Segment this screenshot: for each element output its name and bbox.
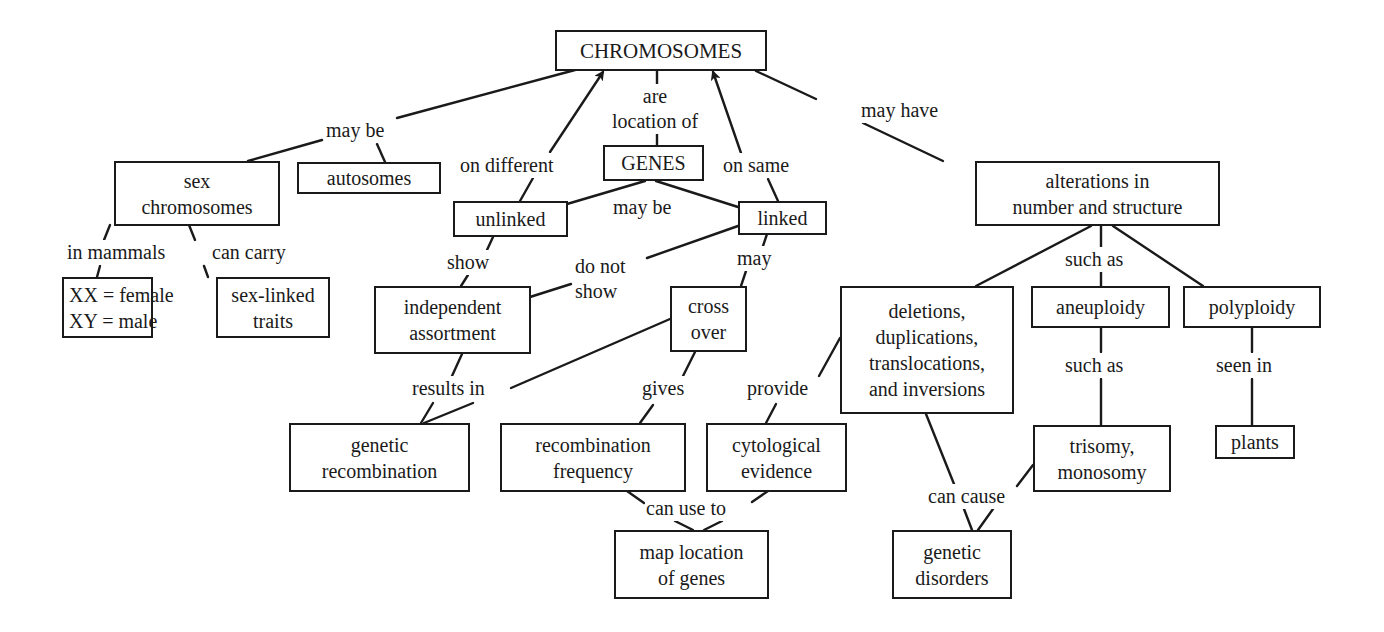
edge-line: [520, 178, 533, 201]
link-label-on-same: on same: [722, 153, 790, 178]
edge-line: [768, 179, 778, 201]
edge-line: [461, 275, 468, 286]
node-map-location-of-genes: map location of genes: [614, 530, 769, 599]
node-text: disorders: [915, 565, 988, 591]
link-label-can-cause: can cause: [927, 484, 1006, 509]
label-text: seen in: [1216, 353, 1272, 378]
node-text: independent: [404, 294, 502, 320]
edge-line: [704, 521, 722, 530]
node-text: traits: [253, 308, 293, 334]
edge-line: [640, 405, 653, 423]
link-label-show: show: [446, 250, 490, 275]
edge-line: [104, 225, 110, 240]
label-text: can cause: [928, 484, 1005, 509]
edge-line: [683, 352, 695, 376]
edge-line: [766, 404, 776, 423]
label-text: may be: [326, 118, 384, 143]
edge-line: [763, 234, 767, 246]
node-xx-xy: XX = female XY = male: [62, 277, 153, 338]
node-chromosomes: CHROMOSOMES: [555, 30, 767, 71]
edge-line: [926, 414, 954, 484]
edge-line: [452, 354, 462, 376]
node-text: translocations,: [869, 350, 985, 376]
label-text: show: [447, 250, 489, 275]
label-text: can use to: [646, 496, 726, 521]
edge-line: [627, 491, 644, 503]
node-text: polyploidy: [1209, 294, 1296, 320]
link-label-may-be-genes: may be: [612, 195, 672, 220]
label-text: on same: [723, 153, 789, 178]
node-text: XX = female: [69, 282, 174, 308]
node-text: plants: [1231, 429, 1279, 455]
edge-line: [964, 509, 972, 530]
label-text: results in: [412, 376, 485, 401]
edge-line: [647, 226, 738, 258]
label-text: gives: [642, 376, 684, 401]
edge-line: [741, 271, 746, 286]
node-text: over: [691, 319, 727, 345]
link-label-are-location-of: are location of: [611, 84, 699, 134]
link-label-can-use-to: can use to: [645, 496, 727, 521]
node-text: autosomes: [327, 165, 411, 191]
node-text: alterations in: [1046, 168, 1150, 194]
edge-line: [863, 123, 943, 161]
edge-line: [97, 266, 100, 277]
edge-line: [978, 509, 993, 530]
label-text: do not: [575, 254, 626, 279]
link-label-seen-in: seen in: [1215, 353, 1273, 378]
node-text: evidence: [741, 458, 812, 484]
edge-line: [397, 70, 575, 118]
edge-line: [819, 338, 840, 376]
edge-line: [675, 521, 693, 530]
node-linked: linked: [738, 201, 827, 235]
edge-line: [204, 266, 208, 277]
node-text: sex: [184, 168, 211, 194]
node-text: sex-linked: [231, 282, 314, 308]
node-text: and inversions: [869, 376, 985, 402]
node-trisomy-monosomy: trisomy, monosomy: [1033, 425, 1171, 492]
edge-line: [530, 284, 571, 297]
label-text: may have: [861, 98, 938, 123]
node-alterations: alterations in number and structure: [975, 161, 1220, 226]
label-text: may: [737, 246, 771, 271]
node-text: monosomy: [1058, 459, 1147, 485]
edge-line: [189, 225, 195, 240]
label-text: can carry: [212, 240, 286, 265]
link-label-results-in: results in: [411, 376, 486, 401]
edge-line: [248, 140, 322, 161]
edge-line: [377, 144, 385, 162]
node-text: XY = male: [69, 308, 157, 334]
edge-line: [752, 491, 768, 502]
node-sex-chromosomes: sex chromosomes: [114, 161, 280, 226]
label-text: are: [612, 84, 698, 109]
node-text: map location: [640, 539, 744, 565]
node-text: trisomy,: [1070, 433, 1135, 459]
node-genetic-recombination: genetic recombination: [289, 423, 470, 492]
edge-line: [550, 72, 603, 152]
node-aneuploidy: aneuploidy: [1031, 286, 1170, 328]
node-text: number and structure: [1013, 194, 1183, 220]
label-text: on different: [460, 153, 554, 178]
node-text: of genes: [658, 565, 725, 591]
node-text: deletions,: [888, 298, 965, 324]
node-text: cytological: [732, 432, 821, 458]
node-text: frequency: [553, 458, 633, 484]
link-label-gives: gives: [641, 376, 685, 401]
node-text: linked: [758, 205, 808, 231]
node-text: duplications,: [876, 324, 979, 350]
node-text: chromosomes: [141, 194, 252, 220]
link-label-may-be: may be: [325, 118, 385, 143]
edge-line: [1113, 226, 1203, 286]
link-label-such-as-aneuploidy: such as: [1064, 353, 1124, 378]
node-text: assortment: [409, 320, 496, 346]
node-deletions-duplications: deletions, duplications, translocations,…: [840, 286, 1014, 414]
link-label-do-not-show: do not show: [574, 254, 627, 304]
link-label-can-carry: can carry: [211, 240, 287, 265]
node-text: recombination: [322, 458, 438, 484]
edge-line: [756, 71, 816, 99]
label-text: location of: [612, 109, 698, 134]
node-text: genetic: [923, 539, 981, 565]
label-text: may be: [613, 195, 671, 220]
node-plants: plants: [1215, 425, 1295, 459]
edge-line: [487, 237, 493, 250]
